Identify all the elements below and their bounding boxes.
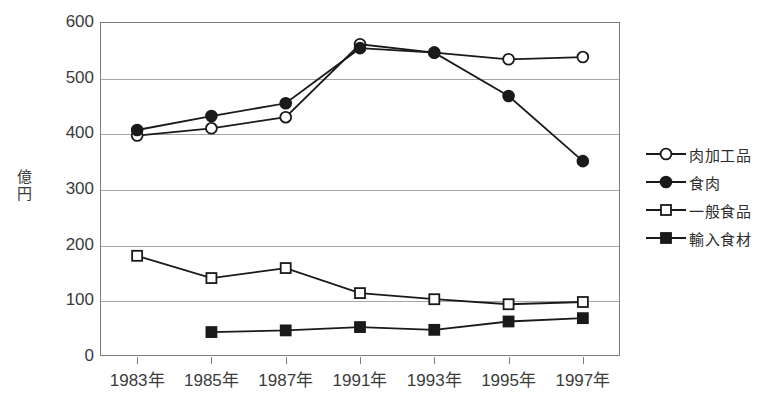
x-tick-label: 1997年 — [555, 366, 610, 391]
data-point — [503, 54, 514, 65]
data-point — [503, 91, 514, 102]
legend-label: 食肉 — [689, 172, 720, 193]
x-tick-label: 1987年 — [258, 366, 313, 391]
data-point — [132, 251, 142, 261]
x-tick-mark — [286, 357, 287, 364]
legend-item-2: 食肉 — [646, 168, 751, 196]
legend-item-1: 肉加工品 — [646, 140, 751, 168]
data-point — [504, 316, 514, 326]
x-tick-mark — [509, 357, 510, 364]
open-square-icon — [646, 202, 686, 218]
data-point — [577, 52, 588, 63]
data-point — [280, 112, 291, 123]
x-tick-mark — [137, 357, 138, 364]
data-point — [281, 325, 291, 335]
x-tick-label: 1983年 — [110, 366, 165, 391]
data-point — [281, 263, 291, 273]
filled-circle-icon — [646, 174, 686, 190]
y-tick-label: 200 — [36, 235, 94, 255]
data-point — [206, 273, 216, 283]
x-tick-mark — [360, 357, 361, 364]
data-point — [577, 156, 588, 167]
data-point — [578, 313, 588, 323]
y-axis-title-char-1: 億 — [14, 168, 34, 185]
series-line — [137, 44, 583, 135]
legend-label: 肉加工品 — [689, 144, 751, 165]
data-point — [355, 43, 366, 54]
data-point — [355, 322, 365, 332]
series-4 — [206, 313, 587, 337]
data-point — [206, 111, 217, 122]
legend-label: 一般食品 — [689, 200, 751, 221]
y-tick-label: 600 — [36, 12, 94, 32]
series-line — [211, 318, 582, 332]
data-point — [429, 294, 439, 304]
data-point — [429, 325, 439, 335]
series-line — [137, 48, 583, 161]
data-point — [355, 288, 365, 298]
x-tick-mark — [583, 357, 584, 364]
data-point — [206, 123, 217, 134]
data-point — [206, 327, 216, 337]
line-chart: 億 円 0100200300400500600 1983年1985年1987年1… — [0, 0, 773, 404]
data-point — [504, 299, 514, 309]
filled-square-icon — [646, 230, 686, 246]
data-series-layer — [100, 22, 620, 356]
data-point — [429, 47, 440, 58]
legend-label: 輸入食材 — [689, 228, 751, 249]
legend: 肉加工品食肉一般食品輸入食材 — [646, 140, 751, 252]
y-axis-title: 億 円 — [14, 168, 34, 202]
legend-item-4: 輸入食材 — [646, 224, 751, 252]
y-tick-label: 400 — [36, 123, 94, 143]
open-circle-icon — [646, 146, 686, 162]
data-point — [280, 98, 291, 109]
y-tick-label: 0 — [36, 346, 94, 366]
x-tick-mark — [434, 357, 435, 364]
y-tick-label: 500 — [36, 68, 94, 88]
y-axis-title-char-2: 円 — [14, 185, 34, 202]
y-tick-label: 100 — [36, 290, 94, 310]
data-point — [578, 297, 588, 307]
x-tick-label: 1993年 — [407, 366, 462, 391]
y-tick-label: 300 — [36, 179, 94, 199]
series-2 — [132, 43, 589, 167]
series-3 — [132, 251, 588, 309]
x-tick-label: 1995年 — [481, 366, 536, 391]
data-point — [132, 125, 143, 136]
legend-item-3: 一般食品 — [646, 196, 751, 224]
x-tick-label: 1991年 — [333, 366, 388, 391]
x-tick-mark — [211, 357, 212, 364]
x-tick-label: 1985年 — [184, 366, 239, 391]
